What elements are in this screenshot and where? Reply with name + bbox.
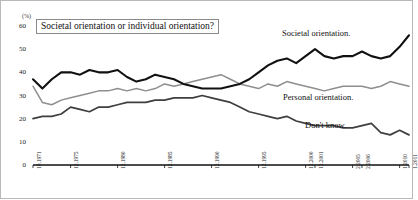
x-tick-label-7: 12.2001 xyxy=(318,152,324,169)
series-line-0 xyxy=(33,35,409,88)
x-tick-label-2: 12.1980 xyxy=(120,152,126,169)
series-label-0: Societal orientation. xyxy=(282,28,350,38)
x-tick-label-0: 10.1971 xyxy=(36,152,42,169)
chart-title: Societal orientation or individual orien… xyxy=(36,19,219,34)
x-tick-label-4: 12.1990 xyxy=(214,152,220,169)
x-tick-label-10: 1.2010 xyxy=(402,154,408,169)
x-tick-label-6: 12.2000 xyxy=(308,152,314,169)
x-tick-label-8: 2.2005 xyxy=(355,154,361,169)
x-tick-label-11: 1.2011 xyxy=(412,154,418,169)
x-tick-label-3: 12.1985 xyxy=(167,152,173,169)
x-tick-label-1: 12.1975 xyxy=(73,152,79,169)
x-tick-label-9: 2.2006 xyxy=(365,154,371,169)
series-label-2: Don't know. xyxy=(305,120,346,130)
x-tick-label-5: 12.1995 xyxy=(261,152,267,169)
series-label-1: Personal orientation. xyxy=(283,92,353,102)
